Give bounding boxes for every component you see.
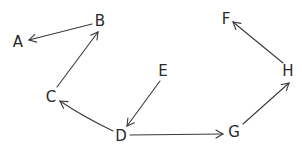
edge-g-to-h — [243, 83, 289, 124]
node-h: H — [282, 62, 293, 80]
node-a: A — [13, 33, 24, 51]
node-f: F — [222, 10, 231, 28]
edge-b-to-a — [29, 24, 92, 40]
edge-d-to-g — [130, 134, 223, 135]
node-b: B — [95, 12, 105, 30]
graph-canvas: A B C D E F G H — [0, 0, 302, 146]
node-d: D — [115, 127, 127, 145]
node-g: G — [228, 123, 240, 141]
edge-e-to-d — [127, 81, 160, 126]
edge-c-to-b — [57, 32, 98, 87]
edge-h-to-f — [233, 22, 283, 63]
node-c: C — [46, 88, 56, 106]
edge-d-to-c — [60, 101, 113, 131]
node-e: E — [158, 62, 167, 80]
